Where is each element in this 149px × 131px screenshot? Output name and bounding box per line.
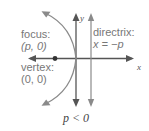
- parabola-lower-arrow: [42, 99, 51, 105]
- vertex-coordinate-label: (0, 0): [21, 74, 47, 85]
- y-axis-arrow-up: [73, 13, 80, 21]
- parabola-figure: focus: (p, 0) vertex: (0, 0) directrix: …: [0, 0, 149, 131]
- parabola-upper-arrow: [42, 11, 51, 17]
- directrix-arrow-up: [88, 13, 94, 21]
- directrix-label: directrix:: [93, 27, 135, 38]
- y-axis-label: y: [80, 14, 84, 23]
- p-condition-label: p < 0: [63, 112, 89, 124]
- x-axis-label: x: [137, 63, 141, 72]
- focus-coordinate-label: (p, 0): [21, 41, 47, 52]
- x-axis-arrow-right: [126, 55, 134, 62]
- directrix-arrow-down: [88, 99, 94, 107]
- focus-label: focus:: [21, 29, 50, 40]
- y-axis-arrow-down: [73, 99, 80, 107]
- directrix-equation-label: x = −p: [93, 39, 124, 50]
- vertex-label: vertex:: [21, 62, 54, 73]
